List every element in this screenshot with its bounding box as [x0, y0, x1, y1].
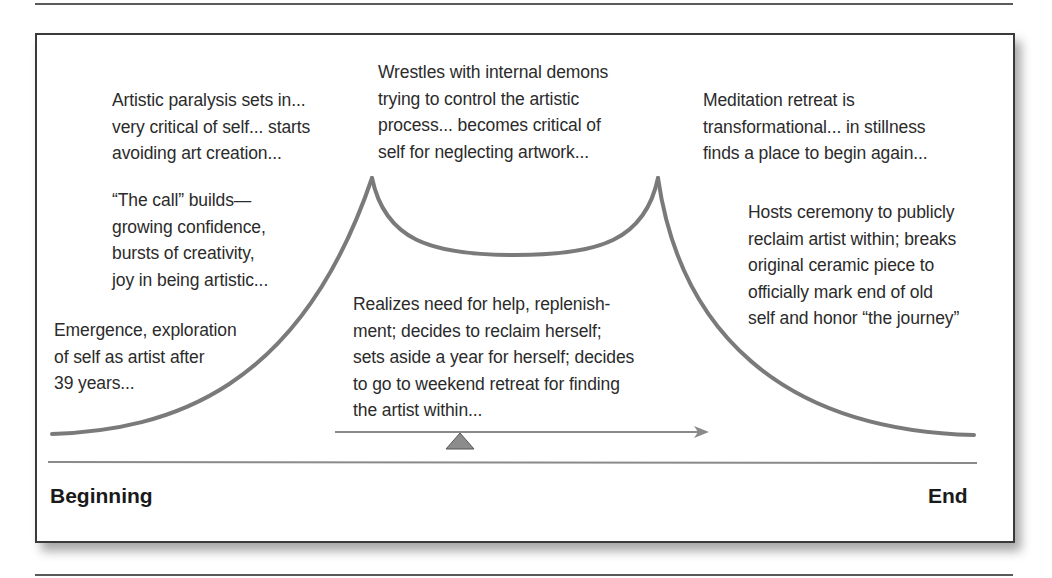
- note-realizes: Realizes need for help, replenish- ment;…: [353, 291, 634, 424]
- note-ceremony: Hosts ceremony to publicly reclaim artis…: [748, 199, 959, 332]
- fulcrum-triangle-icon: [446, 433, 474, 449]
- timeline-baseline: [48, 462, 977, 463]
- note-paralysis: Artistic paralysis sets in... very criti…: [112, 87, 310, 167]
- valley-curve: [372, 178, 658, 255]
- note-the-call: “The call” builds— growing confidence, b…: [112, 187, 268, 293]
- note-emergence: Emergence, exploration of self as artist…: [54, 317, 237, 397]
- note-demons: Wrestles with internal demons trying to …: [378, 59, 608, 165]
- end-label: End: [928, 484, 968, 508]
- bottom-rule: [35, 574, 1013, 576]
- beginning-label: Beginning: [50, 484, 153, 508]
- note-meditation: Meditation retreat is transformational..…: [703, 87, 928, 167]
